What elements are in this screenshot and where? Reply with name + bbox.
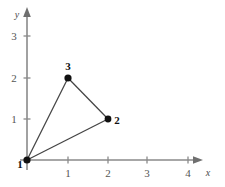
edge-1-to-3	[27, 78, 68, 160]
vertex-marker-2	[105, 116, 112, 123]
vertex-markers	[23, 74, 111, 163]
vertex-label-1: 1	[17, 159, 23, 170]
x-tick-label-1: 1	[65, 168, 71, 179]
y-axis-arrowhead	[23, 7, 31, 17]
x-tick-label-4: 4	[185, 168, 191, 179]
x-tick-label-3: 3	[144, 168, 150, 179]
plot-canvas	[0, 0, 225, 187]
y-tick-label-2: 2	[11, 73, 17, 84]
x-axis-label: x	[206, 167, 210, 178]
edge-2-to-1	[27, 119, 108, 160]
vertex-label-3: 3	[65, 61, 71, 72]
y-tick-label-3: 3	[11, 31, 17, 42]
x-tick-label-2: 2	[105, 168, 111, 179]
triangle-plot-figure: y x 1 2 3 4 1 2 3 1 2 3	[0, 0, 225, 187]
x-axis-arrowhead	[193, 156, 203, 164]
triangle-edges	[27, 78, 108, 160]
y-axis-label: y	[15, 9, 19, 20]
vertex-marker-1	[23, 156, 30, 163]
vertex-marker-3	[64, 74, 71, 81]
vertex-label-2: 2	[114, 115, 120, 126]
y-tick-label-1: 1	[11, 114, 17, 125]
edge-3-to-2	[68, 78, 108, 119]
